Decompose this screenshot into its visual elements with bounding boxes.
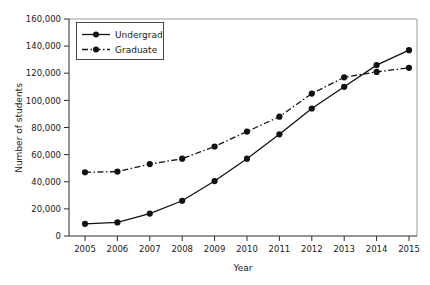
y-tick-label: 0: [56, 231, 61, 241]
x-axis-title: Year: [232, 263, 252, 273]
x-tick-label: 2013: [333, 244, 355, 254]
data-point-graduate-2014: [374, 69, 380, 75]
legend-marker-undergrad: [93, 32, 99, 38]
legend-marker-graduate: [93, 47, 99, 53]
y-tick-label: 120,000: [26, 68, 61, 78]
y-tick-label: 160,000: [26, 14, 61, 24]
data-point-graduate-2008: [179, 156, 185, 162]
x-tick-label: 2011: [269, 244, 291, 254]
x-tick-label: 2009: [204, 244, 226, 254]
data-point-undergrad-2012: [309, 105, 315, 111]
y-tick-label: 40,000: [31, 177, 61, 187]
data-point-undergrad-2009: [212, 178, 218, 184]
x-tick-label: 2010: [236, 244, 258, 254]
line-chart: 0 20,000 40,000 60,000 80,000 100,000 12…: [0, 0, 430, 285]
data-point-undergrad-2006: [114, 219, 120, 225]
data-point-undergrad-2005: [82, 221, 88, 227]
data-point-graduate-2015: [406, 65, 412, 71]
x-tick-label: 2015: [398, 244, 420, 254]
data-point-graduate-2009: [212, 143, 218, 149]
data-series-layer: [82, 47, 412, 227]
x-tick-label: 2014: [366, 244, 388, 254]
data-point-graduate-2012: [309, 90, 315, 96]
data-point-graduate-2013: [341, 74, 347, 80]
x-tick-label: 2006: [107, 244, 129, 254]
y-tick-label: 20,000: [31, 204, 61, 214]
legend-label-undergrad: Undergrad: [115, 30, 163, 40]
data-point-undergrad-2011: [276, 131, 282, 137]
x-tick-label: 2005: [74, 244, 96, 254]
x-axis-ticks: [85, 236, 409, 241]
chart-figure: 0 20,000 40,000 60,000 80,000 100,000 12…: [0, 0, 430, 285]
data-point-graduate-2010: [244, 128, 250, 134]
y-tick-label: 80,000: [31, 123, 61, 133]
data-point-undergrad-2007: [147, 211, 153, 217]
y-tick-label: 60,000: [31, 150, 61, 160]
x-tick-label: 2012: [301, 244, 323, 254]
y-axis-ticks: [64, 19, 69, 236]
y-axis-tick-labels: 0 20,000 40,000 60,000 80,000 100,000 12…: [26, 14, 61, 241]
data-point-undergrad-2014: [374, 62, 380, 68]
data-point-undergrad-2015: [406, 47, 412, 53]
data-point-undergrad-2008: [179, 198, 185, 204]
data-point-graduate-2011: [276, 114, 282, 120]
data-point-undergrad-2013: [341, 84, 347, 90]
data-point-graduate-2007: [147, 161, 153, 167]
series-line-undergrad: [85, 50, 409, 224]
data-point-graduate-2006: [114, 168, 120, 174]
chart-legend: Undergrad Graduate: [77, 23, 164, 60]
y-tick-label: 140,000: [26, 41, 61, 51]
y-axis-title: Number of students: [14, 83, 24, 173]
x-tick-label: 2008: [171, 244, 193, 254]
legend-label-graduate: Graduate: [115, 45, 158, 55]
data-point-graduate-2005: [82, 169, 88, 175]
x-tick-label: 2007: [139, 244, 161, 254]
y-tick-label: 100,000: [26, 96, 61, 106]
x-axis-tick-labels: 2005 2006 2007 2008 2009 2010 2011 2012 …: [74, 244, 420, 254]
data-point-undergrad-2010: [244, 156, 250, 162]
